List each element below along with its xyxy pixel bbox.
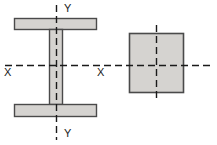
cross-section-diagram: Y Y X X — [0, 0, 217, 145]
label-x-middle: X — [97, 66, 105, 78]
diagram-canvas: Y Y X X — [0, 0, 217, 145]
i-beam-top-flange — [15, 19, 97, 30]
label-y-top: Y — [64, 2, 72, 14]
label-x-left: X — [4, 66, 12, 78]
i-beam-bottom-flange — [15, 105, 97, 117]
label-y-bottom: Y — [64, 127, 72, 139]
i-beam-section — [15, 19, 97, 117]
